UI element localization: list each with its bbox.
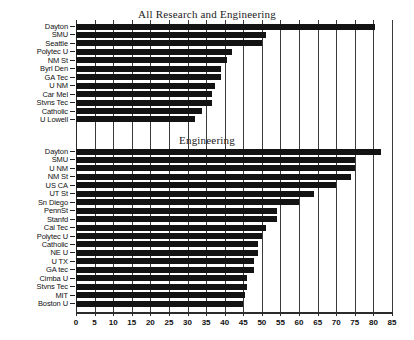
x-tick-25 xyxy=(169,312,170,316)
x-tick-70 xyxy=(336,312,337,316)
y-axis-tick xyxy=(70,85,75,86)
y-axis-tick xyxy=(70,159,75,160)
x-tick-label-80: 80 xyxy=(363,318,383,327)
bar-label: Stvns Tec xyxy=(0,283,68,290)
x-tick-45 xyxy=(243,312,244,316)
bar-label: UT St xyxy=(0,190,68,197)
bar-label: Catholic xyxy=(0,241,68,248)
y-axis-tick xyxy=(70,185,75,186)
x-tick-label-50: 50 xyxy=(252,318,272,327)
bar-row: SMU xyxy=(0,31,414,38)
y-axis-tick xyxy=(70,34,75,35)
x-tick-label-20: 20 xyxy=(140,318,160,327)
bar-row: Dayton xyxy=(0,148,414,155)
x-tick-label-30: 30 xyxy=(178,318,198,327)
x-tick-55 xyxy=(280,312,281,316)
bar-row: NM St xyxy=(0,57,414,64)
panel-engineering: Engineering DaytonSMUU NMNM StUS CAUT St… xyxy=(0,134,414,312)
bar xyxy=(76,83,215,89)
y-axis-tick xyxy=(70,219,75,220)
bar-label: Cimba U xyxy=(0,275,68,282)
x-tick-label-0: 0 xyxy=(66,318,86,327)
bar-row: GA tec xyxy=(0,266,414,273)
y-axis-tick xyxy=(70,269,75,270)
bar xyxy=(76,199,299,205)
x-tick-label-35: 35 xyxy=(196,318,216,327)
bar-label: Dayton xyxy=(0,23,68,30)
x-tick-50 xyxy=(262,312,263,316)
y-axis-tick xyxy=(70,119,75,120)
bar xyxy=(76,301,243,307)
x-tick-85 xyxy=(392,312,393,316)
bar-row: Boston U xyxy=(0,300,414,307)
bar xyxy=(76,225,266,231)
bar xyxy=(76,165,355,171)
x-tick-30 xyxy=(188,312,189,316)
bar xyxy=(76,116,195,122)
bar xyxy=(76,32,266,38)
x-tick-label-5: 5 xyxy=(85,318,105,327)
y-axis-tick xyxy=(70,286,75,287)
y-axis-tick xyxy=(70,202,75,203)
y-axis-tick xyxy=(70,43,75,44)
y-axis-tick xyxy=(70,111,75,112)
bar-label: U Lowell xyxy=(0,116,68,123)
y-axis-tick xyxy=(70,151,75,152)
bar xyxy=(76,157,355,163)
bar xyxy=(76,258,254,264)
y-axis-tick xyxy=(70,26,75,27)
x-tick-0 xyxy=(76,312,77,316)
x-tick-label-15: 15 xyxy=(122,318,142,327)
x-tick-label-85: 85 xyxy=(382,318,402,327)
x-tick-label-40: 40 xyxy=(215,318,235,327)
bar-label: US CA xyxy=(0,182,68,189)
bar xyxy=(76,216,277,222)
y-axis-tick xyxy=(70,168,75,169)
x-tick-20 xyxy=(150,312,151,316)
bar-row: Catholic xyxy=(0,108,414,115)
panel-all-research-and-engineering: All Research and Engineering DaytonSMUSe… xyxy=(0,8,414,134)
y-axis-tick xyxy=(70,102,75,103)
bar-label: U TX xyxy=(0,258,68,265)
bar xyxy=(76,74,221,80)
bar-row: NE U xyxy=(0,249,414,256)
bar xyxy=(76,191,314,197)
y-axis-tick xyxy=(70,94,75,95)
y-axis-tick xyxy=(70,193,75,194)
bar-row: Polytec U xyxy=(0,233,414,240)
y-axis-tick xyxy=(70,68,75,69)
bar-row: Stanfd xyxy=(0,216,414,223)
bar xyxy=(76,40,262,46)
bar-label: NM St xyxy=(0,57,68,64)
x-tick-label-75: 75 xyxy=(345,318,365,327)
x-tick-15 xyxy=(132,312,133,316)
bar xyxy=(76,275,247,281)
chart-figure: All Research and Engineering DaytonSMUSe… xyxy=(0,0,414,340)
bar xyxy=(76,174,351,180)
bar-label: U NM xyxy=(0,82,68,89)
bar-label: PennSt xyxy=(0,207,68,214)
bar-row: U NM xyxy=(0,82,414,89)
bar xyxy=(76,292,245,298)
bar xyxy=(76,233,262,239)
y-axis-tick xyxy=(70,236,75,237)
bar-label: Stvns Tec xyxy=(0,99,68,106)
bar xyxy=(76,250,258,256)
bar xyxy=(76,24,375,30)
bar-row: US CA xyxy=(0,182,414,189)
bar-row: U Lowell xyxy=(0,116,414,123)
x-tick-label-70: 70 xyxy=(326,318,346,327)
bar-row: MIT xyxy=(0,292,414,299)
y-axis-tick xyxy=(70,252,75,253)
x-tick-10 xyxy=(113,312,114,316)
bar xyxy=(76,267,254,273)
x-tick-label-65: 65 xyxy=(308,318,328,327)
bar-row: GA Tec xyxy=(0,74,414,81)
y-axis-tick xyxy=(70,77,75,78)
bar-row: Car Mel xyxy=(0,91,414,98)
bar-label: U NM xyxy=(0,165,68,172)
y-axis-tick xyxy=(70,295,75,296)
x-axis-line xyxy=(76,312,392,314)
y-axis-tick xyxy=(70,244,75,245)
bar xyxy=(76,57,227,63)
